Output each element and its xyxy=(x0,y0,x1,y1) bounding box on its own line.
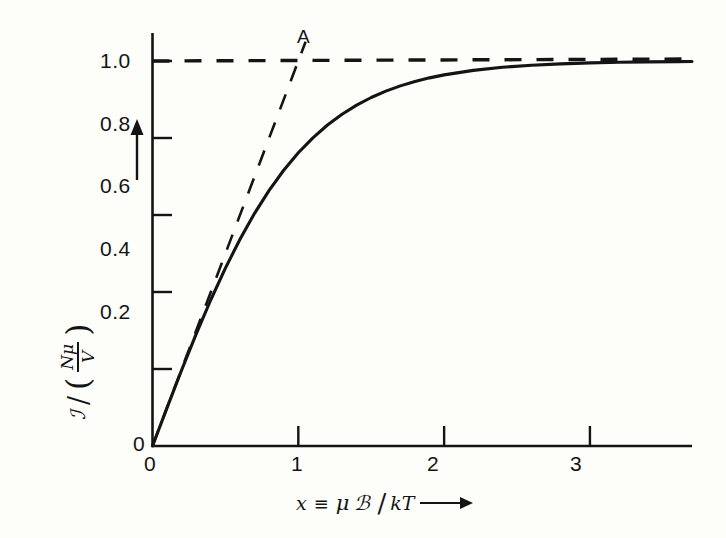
x-axis-label-kt: kT xyxy=(390,492,414,514)
y-axis-label-close-paren: ) xyxy=(60,324,96,336)
asymptote-dashed-line xyxy=(153,59,693,61)
x-axis-label-equiv-sign: ≡ xyxy=(314,493,329,514)
y-axis-label-fraction-numerator: Nμ xyxy=(59,342,77,372)
x-axis-label-script-b: ℬ xyxy=(354,491,370,515)
y-axis-label-slash: / xyxy=(63,395,94,406)
x-tick-label-1: 1 xyxy=(291,452,303,476)
x-tick-label-0: 0 xyxy=(144,452,156,476)
y-tick-marks xyxy=(152,61,172,369)
y-axis-label-fraction: Nμ V xyxy=(59,342,97,372)
x-axis-label-slash: / xyxy=(377,488,386,518)
x-axis-right-arrow-icon xyxy=(420,497,472,509)
tanh-curve xyxy=(153,61,693,446)
x-axis-label-mu: μ xyxy=(336,491,350,515)
x-tick-label-2: 2 xyxy=(427,452,439,476)
figure-canvas: 1.0 0.8 0.6 0.4 0.2 0 0 1 2 3 A ℐ / ( Nμ… xyxy=(0,0,726,538)
x-tick-label-3: 3 xyxy=(570,452,582,476)
y-axis-label-open-paren: ( xyxy=(60,378,96,390)
y-tick-label-1.0: 1.0 xyxy=(100,49,131,73)
annotation-point-a: A xyxy=(297,26,310,48)
y-axis-label-fraction-denominator: V xyxy=(79,349,97,365)
y-axis-label: ℐ / ( Nμ V ) xyxy=(18,120,138,420)
x-axis-label: x ≡ μ ℬ / kT xyxy=(296,488,472,518)
x-tick-marks xyxy=(298,426,590,446)
x-axis-label-variable: x xyxy=(296,492,307,514)
y-axis-label-magnetization-symbol: ℐ xyxy=(66,411,90,420)
